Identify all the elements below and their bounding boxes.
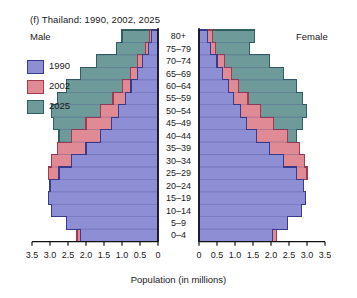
age-group-45-49: 45–49 [159, 118, 199, 128]
age-group-60-64: 60–64 [159, 81, 199, 91]
population-pyramid-figure: (f) Thailand: 1990, 2002, 2025 Male Fema… [0, 0, 357, 298]
legend-label-2002: 2002 [49, 80, 70, 91]
age-group-70-74: 70–74 [159, 56, 199, 66]
age-group-40-44: 40–44 [159, 131, 199, 141]
x-axis-title: Population (in millions) [0, 274, 357, 285]
female-side-label: Female [296, 31, 328, 42]
x-tick-female-3.5: 3.5 [312, 250, 338, 260]
male-side-label: Male [30, 31, 51, 42]
age-group-80+: 80+ [159, 31, 199, 41]
age-group-30-34: 30–34 [159, 156, 199, 166]
x-tick-male-0: 0 [145, 250, 171, 260]
age-group-25-29: 25–29 [159, 168, 199, 178]
age-group-5-9: 5–9 [159, 218, 199, 228]
legend-swatch-1990 [27, 60, 44, 74]
age-group-75-79: 75–79 [159, 44, 199, 54]
age-group-10-14: 10–14 [159, 206, 199, 216]
age-group-65-69: 65–69 [159, 69, 199, 79]
age-group-35-39: 35–39 [159, 143, 199, 153]
age-group-15-19: 15–19 [159, 193, 199, 203]
age-group-0-4: 0–4 [159, 230, 199, 240]
legend-swatch-2025 [27, 100, 44, 114]
legend-label-2025: 2025 [49, 100, 70, 111]
chart-title: (f) Thailand: 1990, 2002, 2025 [30, 14, 160, 25]
legend-label-1990: 1990 [49, 60, 70, 71]
age-group-50-54: 50–54 [159, 106, 199, 116]
legend-swatch-2002 [27, 80, 44, 94]
age-group-20-24: 20–24 [159, 181, 199, 191]
age-group-55-59: 55–59 [159, 93, 199, 103]
